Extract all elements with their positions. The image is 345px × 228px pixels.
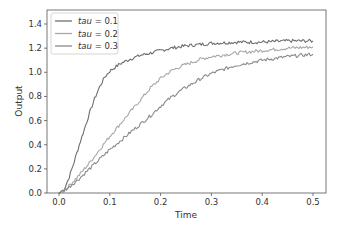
legend-label: tau = 0.3	[78, 41, 118, 51]
y-tick-label: 1.2	[28, 43, 42, 53]
y-tick-label: 1.4	[28, 19, 42, 29]
legend-label: tau = 0.1	[78, 16, 118, 26]
x-tick-label: 0.4	[255, 197, 269, 207]
x-tick-label: 0.0	[52, 197, 66, 207]
x-tick-label: 0.5	[306, 197, 320, 207]
y-axis-label: Output	[14, 85, 24, 117]
x-tick-label: 0.1	[103, 197, 117, 207]
y-tick-label: 0.6	[28, 116, 42, 126]
y-tick-label: 0.4	[28, 140, 42, 150]
x-tick-label: 0.2	[154, 197, 168, 207]
legend: tau = 0.1tau = 0.2tau = 0.3	[51, 13, 118, 54]
y-tick-label: 0.8	[28, 91, 42, 101]
y-tick-label: 0.0	[28, 188, 42, 198]
y-tick-label: 0.2	[28, 164, 42, 174]
legend-items: tau = 0.1tau = 0.2tau = 0.3	[55, 16, 118, 51]
legend-label: tau = 0.2	[78, 29, 118, 39]
line-chart: 0.00.10.20.30.40.5 0.00.20.40.60.81.01.2…	[0, 0, 345, 228]
y-tick-label: 1.0	[28, 67, 42, 77]
x-axis-label: Time	[174, 210, 197, 220]
x-tick-label: 0.3	[205, 197, 219, 207]
